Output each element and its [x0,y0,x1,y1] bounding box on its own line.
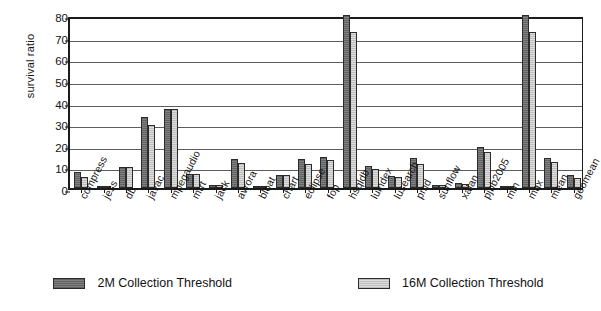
legend-label: 2M Collection Threshold [97,276,232,290]
bar-group [115,19,137,188]
y-tick-label: 50 [22,78,68,90]
legend-item: 2M Collection Threshold [53,276,232,290]
bar-group [339,19,361,188]
bar-group [540,19,562,188]
bar [119,167,126,188]
bar-group [160,19,182,188]
legend-swatch [358,278,390,289]
bar [350,32,357,188]
y-tick-label: 80 [22,13,68,25]
bar-group [563,19,585,188]
legend-label: 16M Collection Threshold [402,276,544,290]
legend-item: 16M Collection Threshold [358,276,544,290]
bar-group [137,19,159,188]
bar-group [70,19,92,188]
bar [164,109,171,188]
bar-group [361,19,383,188]
bar-group [473,19,495,188]
y-tick-label: 10 [22,165,68,177]
y-tick-label: 40 [22,100,68,112]
legend-swatch [53,278,85,289]
y-tick-label: 0 [22,186,68,198]
bar-group [294,19,316,188]
bar [522,15,529,188]
bar [298,159,305,188]
bar-group [518,19,540,188]
y-tick-label: 20 [22,143,68,155]
bar [74,172,81,188]
bar-group [316,19,338,188]
bar [343,15,350,188]
chart-legend: 2M Collection Threshold16M Collection Th… [0,276,597,290]
y-tick-label: 70 [22,35,68,47]
bar [231,159,238,188]
bar-group [451,19,473,188]
bar-group [249,19,271,188]
y-tick-label: 60 [22,57,68,69]
bar [544,158,551,188]
y-tick-label: 30 [22,121,68,133]
bar-group [272,19,294,188]
bar-group [428,19,450,188]
bar-group [383,19,405,188]
bar [529,32,536,188]
bar-group [227,19,249,188]
bar [141,117,148,188]
bar-group [204,19,226,188]
bar [209,185,216,188]
